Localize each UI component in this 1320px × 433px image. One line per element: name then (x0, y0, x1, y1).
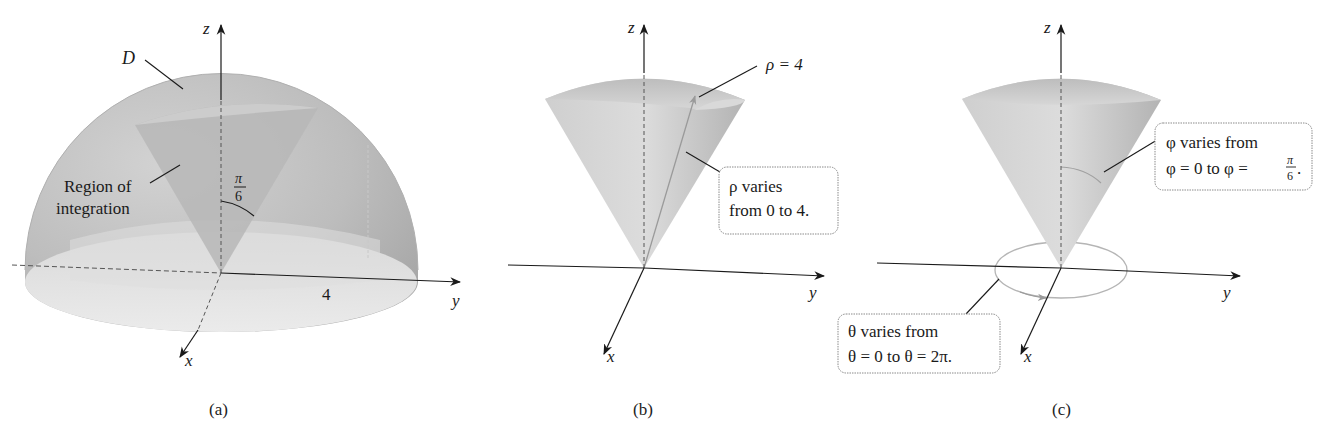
figure-canvas: z y x D Region of integration π 6 4 (a) (0, 0, 1320, 433)
rho-eq-leader (699, 66, 757, 97)
x-axis-label: x (184, 351, 193, 370)
phi-box-line2: φ = 0 to φ = (1166, 159, 1248, 178)
caption-b: (b) (633, 400, 653, 419)
y-axis-negative (508, 265, 644, 268)
theta-box-line2: θ = 0 to θ = 2π. (848, 347, 952, 366)
panel-c: z y x φ varies from φ = 0 to φ = π 6 . θ… (838, 18, 1312, 419)
phi-fraction-numerator: π (1287, 153, 1294, 167)
x-axis (604, 268, 644, 354)
region-label-line1: Region of (64, 177, 132, 196)
angle-numerator: π (235, 171, 243, 186)
x-axis (1021, 268, 1061, 354)
cone-solid (545, 79, 745, 268)
z-axis-label: z (1043, 18, 1051, 37)
x-axis-label: x (606, 347, 615, 366)
x-axis-label: x (1023, 347, 1032, 366)
rho-box-line2: from 0 to 4. (729, 201, 809, 220)
solid-label-d: D (121, 48, 135, 68)
caption-a: (a) (209, 400, 228, 419)
rho-box-line1: ρ varies (729, 177, 782, 196)
rho-eq-label: ρ = 4 (765, 55, 803, 74)
angle-denominator: 6 (235, 189, 242, 204)
y-axis-label: y (807, 283, 817, 302)
y-axis (1061, 268, 1240, 276)
radius-label: 4 (322, 285, 331, 304)
phi-box-line1: φ varies from (1166, 133, 1258, 152)
panel-b: z y x ρ = 4 ρ varies from 0 to 4. (b) (508, 18, 838, 419)
theta-box-leader (966, 279, 999, 314)
panel-a: z y x D Region of integration π 6 4 (a) (12, 19, 460, 419)
z-axis-label: z (202, 19, 210, 38)
z-axis-label: z (627, 18, 635, 37)
phi-fraction-denominator: 6 (1287, 169, 1293, 183)
y-axis (644, 268, 824, 276)
region-label-line2: integration (56, 199, 130, 218)
theta-box-line1: θ varies from (848, 322, 938, 341)
phi-period: . (1297, 159, 1301, 178)
caption-c: (c) (1052, 400, 1071, 419)
y-axis-negative (877, 263, 1061, 268)
y-axis-label: y (450, 291, 460, 310)
y-axis-label: y (1221, 283, 1231, 302)
